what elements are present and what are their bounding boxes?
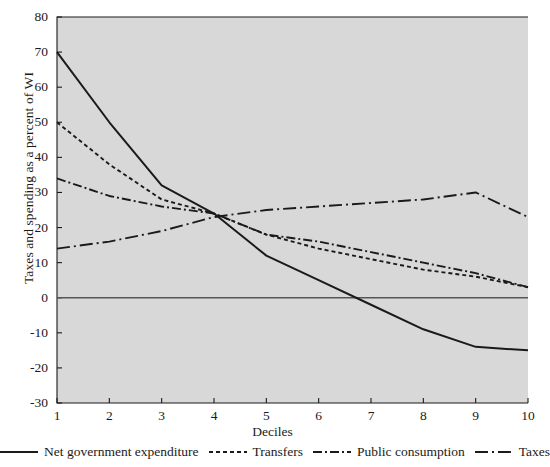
legend-item-label: Public consumption (357, 445, 465, 459)
legend-item[interactable]: Net government expenditure (0, 445, 199, 459)
dotted-line-icon (208, 447, 248, 457)
legend-item-label: Transfers (253, 445, 304, 459)
legend-item[interactable]: Taxes (474, 445, 550, 459)
legend-item-label: Taxes (519, 445, 550, 459)
dash-dot-line-icon (312, 447, 352, 457)
chart-legend: Net government expenditureTransfersPubli… (0, 445, 545, 459)
long-dash-dot-line-icon (474, 447, 514, 457)
legend-item[interactable]: Public consumption (312, 445, 465, 459)
x-axis-label: Deciles (0, 424, 545, 440)
legend-item-label: Net government expenditure (44, 445, 198, 459)
legend-item[interactable]: Transfers (208, 445, 304, 459)
solid-line-icon (0, 447, 39, 457)
